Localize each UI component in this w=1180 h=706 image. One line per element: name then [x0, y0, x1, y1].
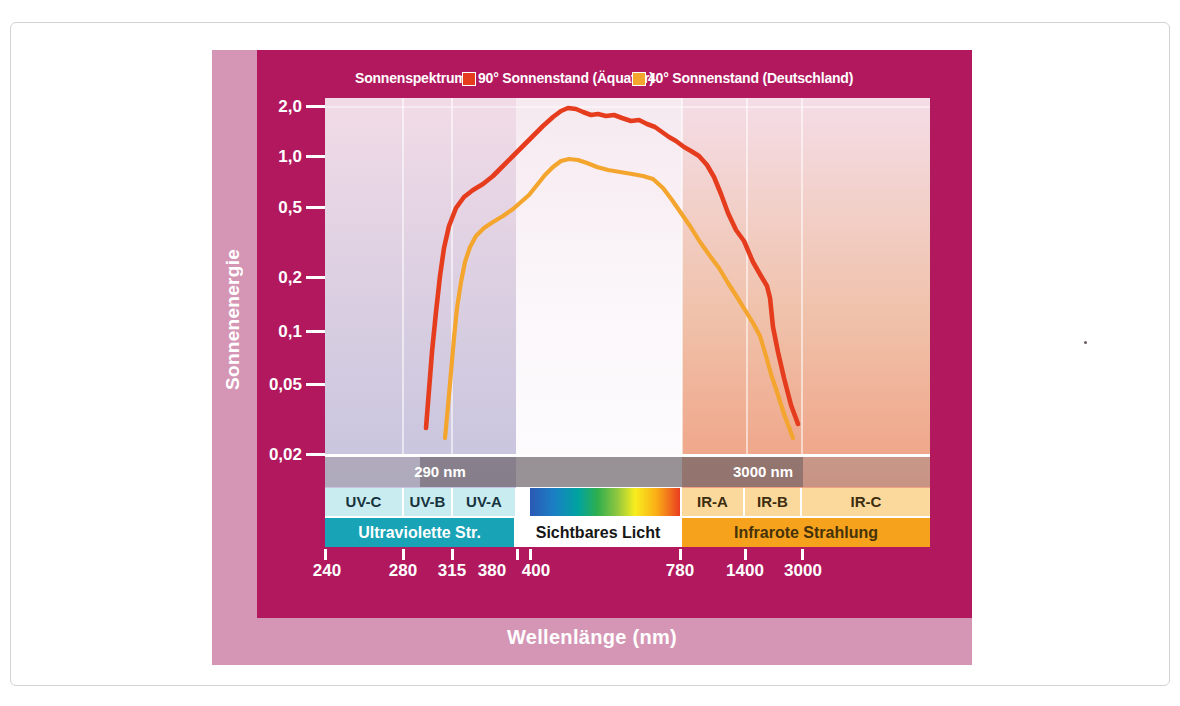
visible-spectrum-gradient [530, 488, 680, 516]
y-tick-0-1 [306, 330, 325, 333]
y-tick-label: 0,02 [238, 444, 302, 466]
band-uv-a: UV-A [453, 488, 515, 516]
curve-90deg-aequator [426, 108, 798, 428]
y-tick-0-05 [306, 383, 325, 386]
x-tick-label: 3000 [771, 560, 835, 582]
x-tick-240 [324, 549, 327, 560]
y-tick-label: 0,1 [238, 321, 302, 343]
y-tick-label: 2,0 [238, 96, 302, 118]
band-ir-c: IR-C [802, 488, 930, 516]
x-tick-label: 1400 [713, 560, 777, 582]
legend-label-40deg: 40° Sonnenstand (Deutschland) [648, 70, 853, 86]
page: Sonnenenergie Sonnenspektrum: 90° Sonnen… [0, 0, 1180, 706]
y-tick-0-02 [306, 453, 325, 456]
y-tick-2-0 [306, 105, 325, 108]
band-uv-c: UV-C [325, 488, 402, 516]
legend-swatch-90deg [462, 72, 476, 86]
spectrum-curves [325, 98, 930, 488]
band-uv-b: UV-B [404, 488, 451, 516]
scan-speck [1084, 341, 1087, 344]
y-tick-label: 0,05 [238, 374, 302, 396]
range-bar-start-label: 290 nm [375, 457, 505, 487]
x-tick-3000 [801, 549, 804, 560]
y-tick-label: 0,5 [238, 197, 302, 219]
y-tick-label: 0,2 [238, 267, 302, 289]
band-ir-b: IR-B [745, 488, 800, 516]
band-ultraviolette-strahlung: Ultraviolette Str. [325, 518, 514, 547]
x-tick-label: 400 [504, 560, 568, 582]
range-bar-end-label: 3000 nm [698, 457, 828, 487]
x-tick-1400 [744, 549, 747, 560]
band-infrarote-strahlung: Infrarote Strahlung [682, 518, 930, 547]
x-tick-315 [451, 549, 454, 560]
band-sichtbares-licht: Sichtbares Licht [516, 518, 680, 547]
legend-label-90deg: 90° Sonnenstand (Äquator) [478, 70, 654, 86]
curve-40deg-deutschland [445, 159, 793, 438]
y-tick-0-2 [306, 276, 325, 279]
x-tick-780 [679, 549, 682, 560]
legend-title: Sonnenspektrum: [355, 70, 471, 86]
y-tick-1-0 [306, 155, 325, 158]
band-ir-a: IR-A [682, 488, 743, 516]
x-tick-280 [402, 549, 405, 560]
x-tick-380 [516, 549, 519, 560]
x-tick-400 [529, 549, 532, 560]
x-tick-label: 780 [648, 560, 712, 582]
legend-swatch-40deg [632, 72, 646, 86]
x-tick-label: 240 [295, 560, 359, 582]
x-axis-title: Wellenlänge (nm) [442, 626, 742, 649]
y-tick-0-5 [306, 206, 325, 209]
y-tick-label: 1,0 [238, 146, 302, 168]
